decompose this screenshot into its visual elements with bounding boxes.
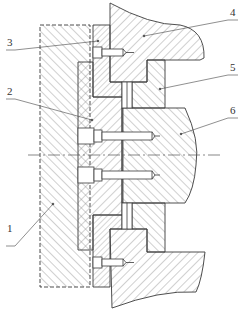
label-part-4: 4 [230, 7, 236, 18]
label-part-5: 5 [230, 62, 236, 73]
cross-section-drawing [0, 0, 241, 318]
label-part-6: 6 [230, 105, 236, 116]
part-6-shaft [122, 108, 197, 203]
label-part-3: 3 [7, 37, 13, 48]
label-part-2: 2 [7, 86, 13, 97]
label-part-1: 1 [7, 223, 13, 234]
